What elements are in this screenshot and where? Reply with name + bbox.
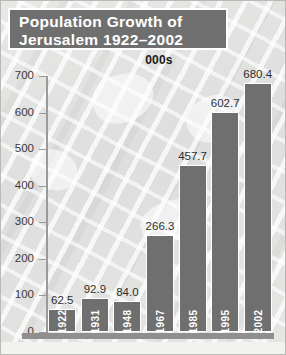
bar[interactable]: 1995	[211, 112, 239, 332]
y-axis-tick-label: 200	[0, 253, 34, 264]
y-axis-tick	[39, 186, 46, 187]
y-axis-tick-label: 100	[0, 289, 34, 300]
bar[interactable]: 1948	[113, 301, 141, 332]
bar-value-label: 680.4	[235, 68, 281, 80]
chart-title-line-2: Jerusalem 1922–2002	[19, 31, 226, 49]
bar-value-label: 266.3	[137, 220, 183, 232]
bar-value-label: 457.7	[170, 150, 216, 162]
bar-value-label: 84.0	[104, 286, 150, 298]
y-axis-tick	[39, 76, 46, 77]
plot-area: 192262.5193192.9194884.01967266.31985457…	[46, 76, 274, 332]
bar-year-label: 1995	[220, 310, 231, 334]
bar-value-label: 602.7	[202, 97, 248, 109]
bar[interactable]: 1922	[48, 309, 76, 332]
y-axis-tick	[39, 222, 46, 223]
bar-value-label: 62.5	[39, 294, 85, 306]
chart-title-line-1: Population Growth of	[19, 13, 226, 31]
footer-band	[1, 342, 285, 354]
bar-year-label: 1985	[187, 310, 198, 334]
chart-container: Population Growth of Jerusalem 1922–2002…	[0, 0, 286, 355]
y-axis-tick-label: 300	[0, 216, 34, 227]
y-axis-tick-label: 600	[0, 107, 34, 118]
bar-year-label: 1967	[155, 310, 166, 334]
chart-title-box: Population Growth of Jerusalem 1922–2002	[8, 8, 228, 50]
bar[interactable]: 1967	[146, 235, 174, 332]
y-axis-tick	[39, 113, 46, 114]
y-axis-tick	[39, 149, 46, 150]
y-axis-tick-label: 400	[0, 180, 34, 191]
bar[interactable]: 1985	[179, 165, 207, 332]
bar[interactable]: 1931	[81, 298, 109, 332]
chart-subtitle-units: 000s	[46, 53, 272, 67]
bar-year-label: 1922	[57, 310, 68, 334]
x-axis-line	[22, 333, 274, 339]
bar-year-label: 1931	[89, 310, 100, 334]
y-axis-tick	[39, 259, 46, 260]
bar-year-label: 1948	[122, 310, 133, 334]
bar[interactable]: 2002	[244, 83, 272, 332]
y-axis-tick-label: 700	[0, 70, 34, 81]
bar-year-label: 2002	[252, 310, 263, 334]
y-axis-tick-label: 500	[0, 143, 34, 154]
